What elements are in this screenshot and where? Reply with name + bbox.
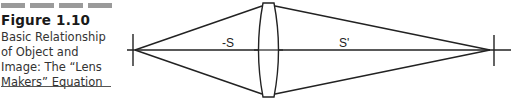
ray-upper-left xyxy=(135,6,262,50)
object-distance-label: -S xyxy=(222,36,234,50)
ray-lower-right xyxy=(275,50,490,94)
lens-diagram: -S S' xyxy=(0,0,523,101)
image-distance-label: S' xyxy=(339,36,349,50)
ray-lower-left xyxy=(135,50,262,94)
ray-upper-right xyxy=(275,6,490,50)
